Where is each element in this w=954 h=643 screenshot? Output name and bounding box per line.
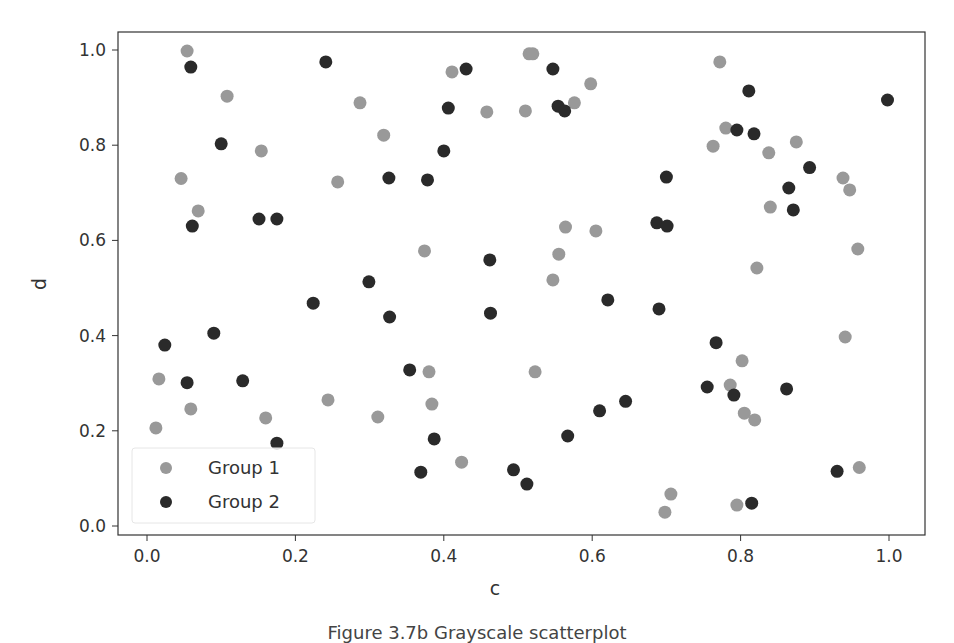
data-point-group-2: [745, 497, 758, 510]
x-tick-label: 1.0: [875, 546, 902, 566]
data-point-group-2: [421, 173, 434, 186]
data-point-group-2: [158, 339, 171, 352]
data-point-group-2: [307, 297, 320, 310]
data-point-group-2: [253, 213, 266, 226]
data-point-group-2: [520, 478, 533, 491]
legend-label-group-2: Group 2: [208, 491, 280, 512]
data-point-group-1: [750, 262, 763, 275]
legend-marker-group-1: [160, 462, 172, 474]
data-point-group-2: [437, 144, 450, 157]
data-point-group-2: [319, 55, 332, 68]
data-point-group-2: [881, 94, 894, 107]
data-point-group-1: [181, 45, 194, 58]
data-point-group-2: [661, 220, 674, 233]
data-point-group-1: [736, 354, 749, 367]
data-point-group-1: [371, 411, 384, 424]
x-axis-ticks: 0.00.20.40.60.81.0: [133, 535, 902, 566]
data-point-group-2: [701, 381, 714, 394]
x-tick-label: 0.6: [579, 546, 606, 566]
data-point-group-1: [354, 96, 367, 109]
data-point-group-2: [270, 213, 283, 226]
data-point-group-2: [460, 63, 473, 76]
data-point-group-2: [831, 465, 844, 478]
data-point-group-2: [507, 463, 520, 476]
figure-caption: Figure 3.7b Grayscale scatterplot: [0, 622, 954, 643]
data-point-group-1: [559, 221, 572, 234]
data-point-group-2: [403, 363, 416, 376]
data-point-group-1: [259, 411, 272, 424]
data-point-group-1: [552, 248, 565, 261]
y-tick-label: 1.0: [79, 40, 106, 60]
data-point-group-1: [843, 183, 856, 196]
data-point-group-1: [529, 365, 542, 378]
data-point-group-1: [837, 172, 850, 185]
data-point-group-2: [601, 293, 614, 306]
data-point-group-2: [483, 253, 496, 266]
data-point-group-1: [546, 273, 559, 286]
data-point-group-2: [184, 61, 197, 74]
data-point-group-1: [526, 47, 539, 60]
data-point-group-1: [748, 413, 761, 426]
data-point-group-1: [480, 105, 493, 118]
data-point-group-1: [184, 402, 197, 415]
data-point-group-2: [382, 172, 395, 185]
data-point-group-1: [192, 204, 205, 217]
data-point-group-1: [853, 461, 866, 474]
data-point-group-1: [730, 499, 743, 512]
data-point-group-1: [425, 398, 438, 411]
x-tick-label: 0.4: [430, 546, 457, 566]
data-point-group-2: [730, 124, 743, 137]
data-point-group-1: [446, 65, 459, 78]
legend-marker-group-2: [160, 496, 172, 508]
y-tick-label: 0.0: [79, 516, 106, 536]
data-point-group-2: [414, 466, 427, 479]
data-point-group-2: [561, 430, 574, 443]
data-point-group-2: [207, 327, 220, 340]
data-point-group-1: [455, 456, 468, 469]
legend: Group 1 Group 2: [132, 448, 315, 523]
data-point-group-2: [546, 63, 559, 76]
y-tick-label: 0.8: [79, 135, 106, 155]
data-point-group-2: [742, 84, 755, 97]
data-point-group-1: [255, 144, 268, 157]
x-axis-label: c: [490, 577, 500, 599]
data-point-group-2: [710, 336, 723, 349]
data-point-group-1: [790, 135, 803, 148]
data-point-group-2: [782, 182, 795, 195]
y-axis-label: d: [28, 278, 50, 290]
data-point-group-2: [593, 404, 606, 417]
data-point-group-1: [589, 224, 602, 237]
data-point-group-2: [619, 395, 632, 408]
data-point-group-1: [707, 140, 720, 153]
data-point-group-1: [377, 129, 390, 142]
data-point-group-2: [803, 161, 816, 174]
data-point-group-2: [780, 382, 793, 395]
data-point-group-2: [727, 389, 740, 402]
data-point-group-2: [748, 127, 761, 140]
data-point-group-1: [851, 243, 864, 256]
data-point-group-2: [558, 104, 571, 117]
data-point-group-1: [584, 77, 597, 90]
data-point-group-2: [236, 374, 249, 387]
data-point-group-2: [181, 376, 194, 389]
data-point-group-1: [331, 175, 344, 188]
data-point-group-2: [186, 220, 199, 233]
x-tick-label: 0.8: [727, 546, 754, 566]
data-point-group-2: [362, 275, 375, 288]
data-point-group-1: [764, 201, 777, 214]
y-axis-ticks: 0.00.20.40.60.81.0: [79, 40, 118, 536]
data-point-group-2: [383, 311, 396, 324]
data-point-group-1: [519, 104, 532, 117]
data-point-group-1: [221, 90, 234, 103]
data-point-group-2: [787, 203, 800, 216]
data-point-group-2: [660, 171, 673, 184]
y-tick-label: 0.4: [79, 326, 106, 346]
y-tick-label: 0.6: [79, 230, 106, 250]
data-point-group-2: [428, 432, 441, 445]
data-point-group-1: [149, 421, 162, 434]
data-point-group-1: [713, 55, 726, 68]
data-point-group-1: [152, 372, 165, 385]
data-point-group-1: [175, 172, 188, 185]
x-tick-label: 0.0: [133, 546, 160, 566]
